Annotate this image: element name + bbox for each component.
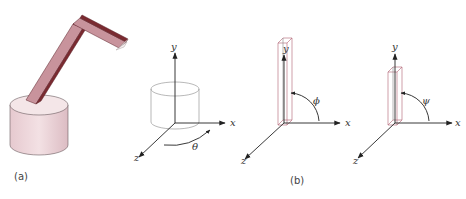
x-axis-label: x: [455, 117, 461, 128]
y-axis-label: y: [170, 41, 177, 52]
x-axis-label: x: [345, 117, 351, 128]
z-axis-label: z: [352, 155, 359, 166]
diagram-upper-arm: [358, 54, 452, 158]
z-axis-label: z: [133, 152, 140, 163]
x-axis-label: x: [230, 117, 236, 128]
y-axis-label: y: [391, 41, 398, 52]
y-axis-label: y: [282, 43, 289, 54]
phi-label: ϕ: [313, 95, 320, 106]
figure-canvas: (a) y x z θ y x z ϕ: [0, 0, 466, 199]
z-axis: [139, 123, 175, 157]
caption-b: (b): [290, 175, 304, 186]
z-axis: [358, 123, 395, 158]
psi-label: ψ: [422, 95, 430, 106]
robot-base-cylinder: [10, 95, 68, 155]
theta-arc: [164, 130, 210, 145]
caption-a: (a): [14, 171, 28, 182]
z-axis: [245, 123, 284, 159]
z-axis-label: z: [240, 155, 247, 166]
robot-arm-illustration: [10, 15, 128, 155]
robot-lower-arm: [26, 21, 87, 104]
diagram-lower-arm: [245, 38, 340, 159]
diagram-base-rotation: [139, 53, 225, 157]
theta-label: θ: [192, 141, 198, 152]
